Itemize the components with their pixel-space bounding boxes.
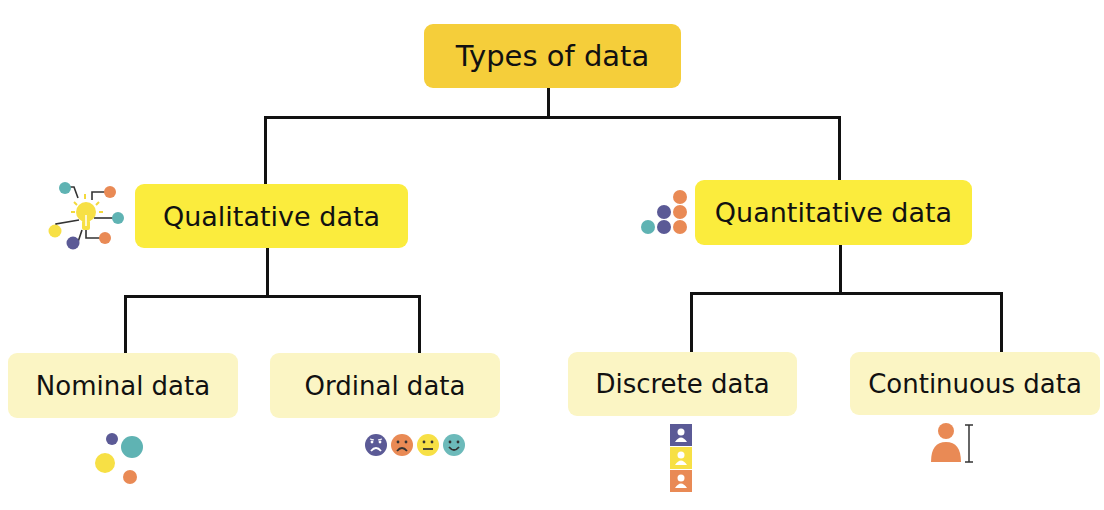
stacked-people-blocks-icon — [670, 424, 692, 492]
connector-to-nominal — [124, 295, 127, 353]
node-ordinal-data: Ordinal data — [270, 353, 500, 418]
qualitative-label: Qualitative data — [163, 201, 380, 232]
connector-to-quantitative — [838, 116, 841, 180]
nominal-label: Nominal data — [36, 371, 210, 401]
connector-root-horizontal — [264, 116, 841, 119]
connector-root-down — [547, 88, 550, 118]
ordinal-label: Ordinal data — [305, 371, 466, 401]
connector-to-qualitative — [264, 116, 267, 184]
root-node-types-of-data: Types of data — [424, 24, 681, 88]
connector-qualitative-horizontal — [124, 295, 420, 298]
connector-to-continuous — [1000, 292, 1003, 352]
person-height-icon — [930, 422, 976, 464]
node-nominal-data: Nominal data — [8, 353, 238, 418]
connector-quantitative-down — [839, 245, 842, 294]
node-qualitative-data: Qualitative data — [135, 184, 408, 248]
root-node-label: Types of data — [456, 39, 649, 73]
scattered-dots-icon — [90, 430, 156, 488]
connector-to-discrete — [690, 292, 693, 352]
node-continuous-data: Continuous data — [850, 352, 1100, 415]
node-discrete-data: Discrete data — [568, 352, 797, 416]
discrete-label: Discrete data — [595, 369, 769, 399]
connector-to-ordinal — [418, 295, 421, 353]
connector-quantitative-horizontal — [690, 292, 1002, 295]
continuous-label: Continuous data — [868, 369, 1082, 399]
lightbulb-network-icon — [44, 180, 128, 250]
stacked-dots-icon — [640, 188, 692, 236]
connector-qualitative-down — [266, 248, 269, 297]
quantitative-label: Quantitative data — [715, 197, 952, 228]
node-quantitative-data: Quantitative data — [695, 180, 972, 245]
emoji-faces-scale-icon — [364, 432, 468, 458]
